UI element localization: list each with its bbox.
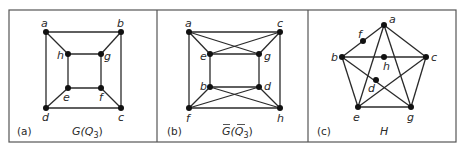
panel-c-tag: (c) — [317, 125, 331, 137]
panel-b-labels: a c e g b d f h (b) G(Q3) — [167, 17, 284, 140]
vertex-label-e: e — [200, 50, 207, 63]
vertex-e — [207, 51, 213, 57]
vertex-label-h: h — [277, 112, 284, 125]
graph-edge — [411, 57, 426, 107]
vertex-label-c: c — [118, 111, 124, 124]
vertex-label-a: a — [41, 17, 48, 30]
graph-edge — [101, 88, 121, 108]
vertex-label-e: e — [353, 111, 360, 124]
vertex-label-e: e — [63, 91, 70, 104]
vertex-g — [256, 51, 262, 57]
vertex-h — [65, 51, 71, 57]
panel-b-tag: (b) — [167, 125, 182, 137]
vertex-label-c: c — [431, 51, 437, 64]
vertex-label-g: g — [104, 50, 111, 63]
graph-edge — [384, 25, 426, 57]
figure-canvas: a b h g e f d c (a) G(Q3) a c e g b d f … — [0, 0, 465, 147]
figure-frame — [9, 10, 456, 142]
vertex-label-d: d — [42, 111, 50, 124]
panel-a-edges — [46, 32, 121, 108]
vertex-a — [381, 22, 387, 28]
vertex-e — [355, 104, 361, 110]
vertex-h — [277, 105, 283, 111]
vertex-f — [186, 105, 192, 111]
vertex-label-h: h — [57, 49, 64, 62]
vertex-label-b: b — [200, 80, 207, 93]
vertex-label-h: h — [383, 60, 390, 73]
vertex-label-a: a — [185, 17, 192, 30]
graph-edge — [342, 57, 358, 107]
vertex-g — [408, 104, 414, 110]
panel-a-labels: a b h g e f d c (a) G(Q3) — [17, 17, 124, 140]
panel-b-caption: G(Q3) — [222, 125, 253, 140]
vertex-label-g: g — [264, 50, 271, 63]
vertex-label-f: f — [99, 91, 105, 104]
vertex-label-b: b — [117, 17, 124, 30]
vertex-label-c: c — [277, 17, 283, 30]
panel-b-edges — [189, 32, 280, 108]
panel-c-labels: a f b h c d e g (c) H — [317, 13, 437, 138]
panel-a-tag: (a) — [17, 125, 32, 137]
vertex-label-f: f — [186, 112, 192, 125]
panel-a-caption: G(Q3) — [72, 125, 103, 140]
vertex-c — [423, 54, 429, 60]
panel-c-caption: H — [380, 125, 388, 138]
vertex-label-a: a — [389, 13, 396, 26]
vertex-label-d: d — [368, 82, 376, 95]
vertex-label-b: b — [331, 51, 338, 64]
vertex-label-d: d — [264, 80, 272, 93]
vertex-b — [339, 54, 345, 60]
vertex-label-g: g — [407, 111, 414, 124]
vertex-b — [207, 84, 213, 90]
vertex-d — [256, 84, 262, 90]
